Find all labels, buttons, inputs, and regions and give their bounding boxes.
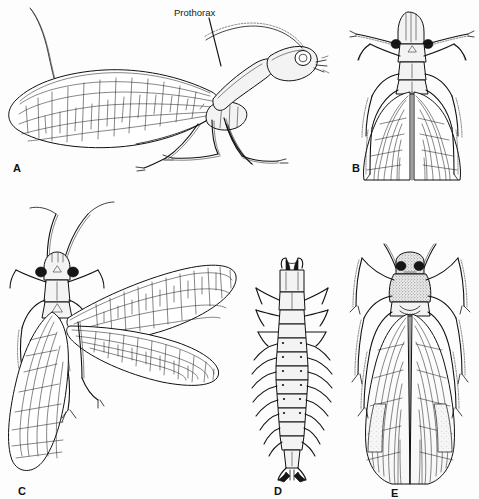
panel-letter-c: C — [18, 486, 26, 497]
prothorax-label: Prothorax — [174, 8, 215, 18]
insect-plate-figure: .ln{fill:none;stroke:#111;stroke-width:0… — [0, 0, 479, 499]
panel-letter-d: D — [274, 486, 282, 497]
panel-letter-b: B — [352, 163, 360, 174]
panel-letter-a: A — [13, 163, 21, 174]
plate-artwork: .ln{fill:none;stroke:#111;stroke-width:0… — [0, 0, 479, 499]
panel-letter-e: E — [391, 488, 399, 499]
